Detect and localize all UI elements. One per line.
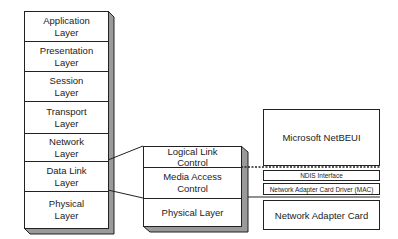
osi-layer-application: Application Layer	[25, 12, 108, 42]
osi-model-stack: Application Layer Presentation Layer Ses…	[24, 11, 109, 229]
osi-layer-physical: Physical Layer	[25, 192, 108, 228]
osi-layer-data-link: Data Link Layer	[25, 162, 108, 192]
osi-layer-session: Session Layer	[25, 72, 108, 102]
osi-layer-network: Network Layer	[25, 134, 108, 162]
netbeui-box: Microsoft NetBEUI	[263, 109, 380, 166]
ieee-layer-llc: Logical Link Control	[144, 147, 241, 168]
adapter-driver-box: Network Adapter Card Driver (MAC)	[263, 183, 380, 195]
osi-layer-transport: Transport Layer	[25, 102, 108, 134]
ndis-interface-box: NDIS Interface	[263, 170, 380, 181]
ieee-layer-mac: Media Access Control	[144, 168, 241, 199]
ieee-802-stack: Logical Link Control Media Access Contro…	[143, 146, 242, 227]
osi-layer-presentation: Presentation Layer	[25, 42, 108, 72]
ieee-layer-physical: Physical Layer	[144, 199, 241, 226]
network-adapter-card-box: Network Adapter Card	[263, 200, 380, 230]
